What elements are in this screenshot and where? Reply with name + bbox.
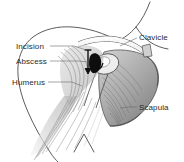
label-scapula: Scapula xyxy=(139,103,169,112)
label-clavicle: Clavicle xyxy=(139,33,168,42)
label-humerus: Humerus xyxy=(12,78,45,87)
anatomical-figure: Incision Abscess Humerus Clavicle Scapul… xyxy=(0,0,184,162)
label-abscess: Abscess xyxy=(16,57,47,66)
label-incision: Incision xyxy=(16,42,44,51)
